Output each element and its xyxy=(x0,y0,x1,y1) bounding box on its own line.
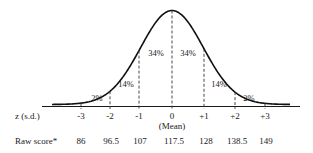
z-tick-pos3: +3 xyxy=(260,111,270,121)
band-label-neg1-mean: 34% xyxy=(148,48,164,58)
raw-score-axis-label: Raw score* xyxy=(15,136,57,146)
raw-score-neg1: 107 xyxy=(133,136,147,146)
band-label-pos2-pos3: 2% xyxy=(243,93,254,103)
mean-label: (Mean) xyxy=(159,121,186,131)
z-tick-neg2: -2 xyxy=(106,111,114,121)
z-tick-neg3: -3 xyxy=(77,111,85,121)
raw-score-neg3: 86 xyxy=(77,136,86,146)
z-tick-0: 0 xyxy=(170,111,175,121)
band-label-mean-pos1: 34% xyxy=(180,48,196,58)
normal-distribution-chart xyxy=(0,0,313,153)
raw-score-mean: 117.5 xyxy=(164,136,184,146)
raw-score-pos2: 138.5 xyxy=(227,136,247,146)
z-axis-label: z (s.d.) xyxy=(15,111,40,121)
raw-score-pos3: 149 xyxy=(259,136,273,146)
z-tick-pos2: +2 xyxy=(230,111,240,121)
raw-score-neg2: 96.5 xyxy=(103,136,119,146)
band-label-neg3-neg2: 2% xyxy=(91,93,102,103)
bell-curve xyxy=(52,11,290,105)
band-label-pos1-pos2: 14% xyxy=(211,79,227,89)
z-tick-pos1: +1 xyxy=(199,111,209,121)
z-tick-neg1: -1 xyxy=(135,111,143,121)
band-label-neg2-neg1: 14% xyxy=(118,79,134,89)
raw-score-pos1: 128 xyxy=(199,136,213,146)
